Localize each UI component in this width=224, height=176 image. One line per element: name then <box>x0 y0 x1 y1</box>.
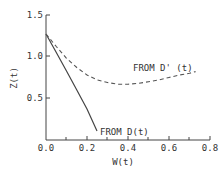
series-from-d-prime <box>46 34 196 84</box>
y-axis-title: Z(t) <box>9 67 19 89</box>
chart: 1.5 1.0 0.5 0.0 0.2 0.4 0.6 0.8 W(t) Z(t… <box>0 0 224 176</box>
y-tick-label: 1.0 <box>27 51 43 61</box>
y-tick-label: 1.5 <box>27 10 43 20</box>
x-tick-label: 0.2 <box>79 143 95 153</box>
x-tick-label: 0.4 <box>120 143 136 153</box>
annotation-from-d-prime: FROM D' (t) <box>133 63 193 73</box>
series-from-d <box>46 34 97 131</box>
x-tick-label: 0.8 <box>202 143 218 153</box>
annotation-from-d: FROM D(t) <box>100 127 149 137</box>
y-tick-label: 0.5 <box>27 93 43 103</box>
x-tick-label: 0.6 <box>161 143 177 153</box>
x-axis-title: W(t) <box>112 157 134 167</box>
x-tick-label: 0.0 <box>38 143 54 153</box>
y-ticks <box>46 15 50 98</box>
